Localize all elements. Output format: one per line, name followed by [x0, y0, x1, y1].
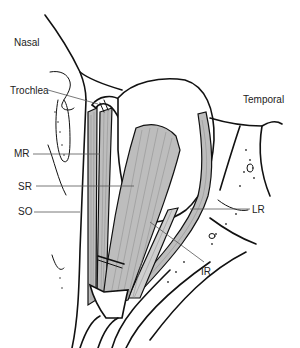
label-nasal: Nasal — [14, 37, 40, 48]
label-lr: LR — [252, 204, 265, 215]
label-ir: IR — [201, 266, 211, 277]
extraocular-muscles-diagram: Nasal Temporal Trochlea MR SR SO LR IR — [0, 0, 300, 348]
label-sr: SR — [18, 181, 32, 192]
superior-oblique-muscle — [88, 108, 97, 305]
label-temporal: Temporal — [243, 94, 284, 105]
leader-trochlea — [48, 90, 98, 104]
label-trochlea: Trochlea — [10, 85, 49, 96]
label-mr: MR — [14, 148, 30, 159]
label-so: SO — [18, 206, 33, 217]
